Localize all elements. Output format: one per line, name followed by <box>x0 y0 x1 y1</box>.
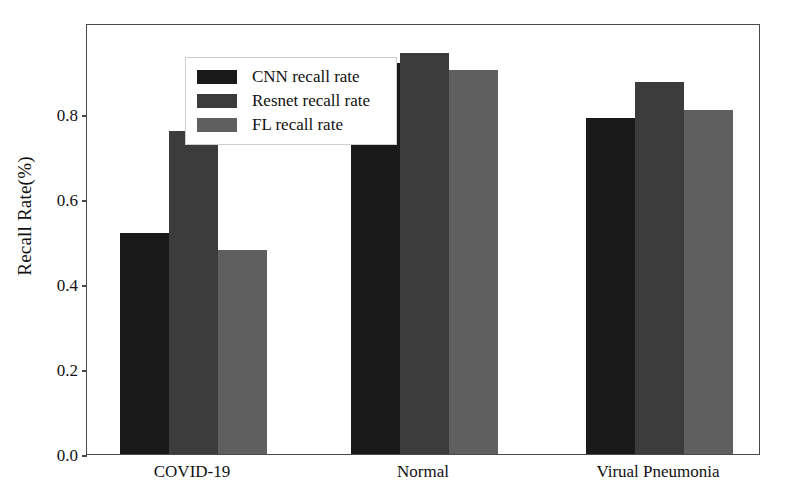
x-axis-tick-label: COVID-19 <box>154 462 231 482</box>
plot-frame: 0.00.20.40.60.8 CNN recall rateResnet re… <box>86 24 760 455</box>
y-axis-tick-mark <box>82 200 87 202</box>
bar <box>586 118 635 454</box>
bar <box>400 53 449 454</box>
bar <box>169 131 218 454</box>
legend-label: FL recall rate <box>252 115 343 135</box>
legend-item: FL recall rate <box>197 113 386 137</box>
legend-item: Resnet recall rate <box>197 89 386 113</box>
y-axis-tick-mark <box>82 455 87 457</box>
legend-item: CNN recall rate <box>197 65 386 89</box>
x-axis-tick-label: Normal <box>397 462 449 482</box>
y-axis-tick-label: 0.8 <box>57 105 78 127</box>
legend-label: Resnet recall rate <box>252 91 370 111</box>
x-axis-tick-label: Virual Pneumonia <box>596 462 719 482</box>
bar <box>449 70 498 454</box>
bar <box>120 233 169 454</box>
bar <box>218 250 267 454</box>
legend-swatch <box>197 70 237 84</box>
y-axis-tick-label: 0.0 <box>57 445 78 467</box>
legend-swatch <box>197 94 237 108</box>
y-axis-tick-mark <box>82 370 87 372</box>
y-axis-tick-label: 0.6 <box>57 190 78 212</box>
y-axis-label: Recall Rate(%) <box>12 0 38 431</box>
bar <box>635 82 684 454</box>
y-axis-tick-label: 0.4 <box>57 275 78 297</box>
legend: CNN recall rateResnet recall rateFL reca… <box>185 57 397 145</box>
legend-swatch <box>197 118 237 132</box>
y-axis-label-text: Recall Rate(%) <box>14 156 36 275</box>
y-axis-tick-mark <box>82 285 87 287</box>
legend-label: CNN recall rate <box>252 67 360 87</box>
y-axis-tick-mark <box>82 115 87 117</box>
bar <box>684 110 733 454</box>
y-axis-tick-label: 0.2 <box>57 360 78 382</box>
bar-chart-figure: Recall Rate(%) 0.00.20.40.60.8 CNN recal… <box>0 0 793 496</box>
